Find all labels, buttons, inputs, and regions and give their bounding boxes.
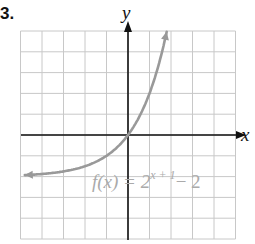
function-exponent: x + 1 <box>150 168 175 182</box>
graph <box>0 0 255 244</box>
function-curve <box>25 32 167 175</box>
function-lhs: f(x) = 2 <box>92 171 150 192</box>
x-axis <box>21 131 246 139</box>
curve-left-arrow-icon <box>25 171 33 179</box>
x-axis-label: x <box>241 124 249 146</box>
y-axis-label: y <box>122 2 130 24</box>
function-label: f(x) = 2x + 1− 2 <box>92 168 201 193</box>
function-rhs: − 2 <box>176 171 201 192</box>
